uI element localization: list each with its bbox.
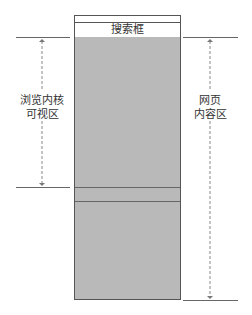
viewport-label-line-1: 浏览内核 bbox=[14, 94, 70, 108]
right-arrow-down-head bbox=[207, 296, 213, 299]
content-label-line-2: 内容区 bbox=[182, 108, 238, 122]
dimension-arrows bbox=[0, 0, 252, 315]
right-arrow-up-head bbox=[207, 39, 213, 42]
viewport-label-line-2: 可视区 bbox=[14, 108, 70, 122]
left-arrow-up-head bbox=[39, 39, 45, 42]
left-arrow-down-head bbox=[39, 183, 45, 186]
viewport-label: 浏览内核 可视区 bbox=[14, 94, 70, 122]
content-label: 网页 内容区 bbox=[182, 94, 238, 122]
content-label-line-1: 网页 bbox=[182, 94, 238, 108]
